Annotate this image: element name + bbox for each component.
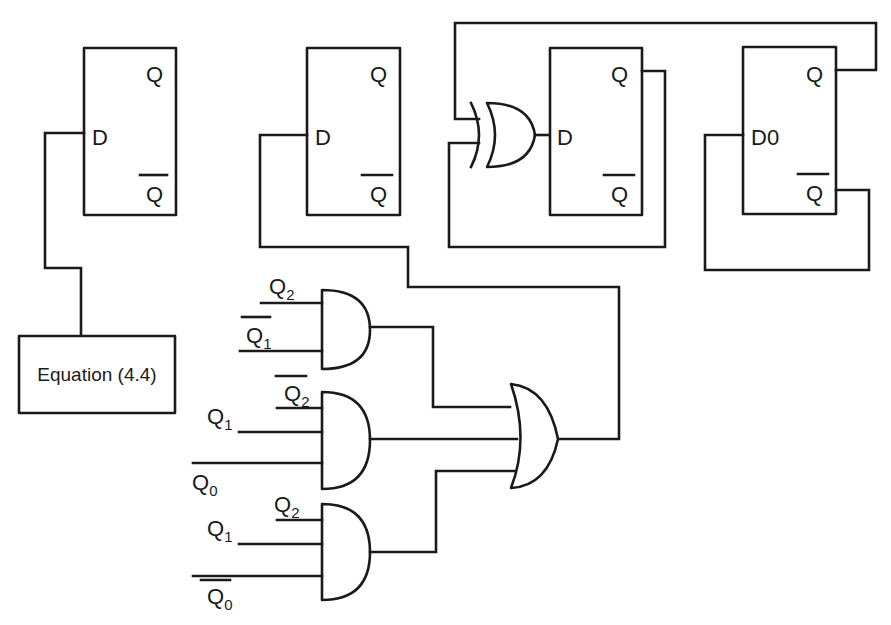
wire-and1-to-or — [370, 327, 510, 407]
and3-q0bar-label: Q0 — [207, 584, 232, 613]
and2-q2bar-label: Q2 — [284, 381, 309, 410]
flip-flop-1: Q D Q — [84, 48, 176, 215]
ff3-q-label: Q — [611, 62, 628, 87]
flip-flop-4: Q D0 Q — [743, 47, 836, 214]
ff3-d-label: D — [557, 125, 573, 150]
xor-input-curve — [471, 103, 479, 167]
and1-q2-label: Q2 — [269, 274, 294, 303]
and-gate-3: Q2 Q1 Q0 — [193, 492, 370, 613]
and-gate-1-body — [322, 290, 370, 369]
or-gate-body — [511, 384, 558, 488]
ff1-q-label: Q — [146, 62, 163, 87]
ff2-d-label: D — [315, 125, 331, 150]
circuit-diagram: Q D Q Equation (4.4) Q D Q Q D Q Q D0 — [0, 0, 891, 625]
ff1-qbar-label: Q — [146, 182, 163, 207]
ff4-q-label: Q — [806, 62, 823, 87]
equation-box: Equation (4.4) — [19, 336, 175, 413]
ff2-qbar-label: Q — [370, 182, 387, 207]
ff4-qbar-label: Q — [806, 181, 823, 206]
or-gate — [511, 384, 558, 488]
ff4-d-label: D0 — [751, 125, 779, 150]
ff1-d-label: D — [92, 125, 108, 150]
equation-label: Equation (4.4) — [37, 364, 156, 385]
and-gate-2-body — [322, 392, 370, 489]
and3-q2-label: Q2 — [274, 492, 299, 521]
and-gate-3-body — [322, 504, 370, 600]
ff3-qbar-label: Q — [611, 182, 628, 207]
wire-eq-to-ff1-d — [45, 133, 84, 335]
xor-gate — [471, 103, 535, 167]
and2-q0-label: Q0 — [192, 470, 217, 499]
and-gate-1: Q2 Q1 — [240, 274, 370, 369]
and3-q1-label: Q1 — [207, 516, 232, 545]
xor-body — [487, 103, 535, 167]
and2-q1-label: Q1 — [207, 404, 232, 433]
and1-q1bar-label: Q1 — [246, 323, 271, 352]
ff2-q-label: Q — [370, 62, 387, 87]
flip-flop-3: Q D Q — [550, 48, 642, 215]
wire-and3-to-or — [370, 471, 517, 552]
flip-flop-2: Q D Q — [307, 48, 400, 215]
and-gate-2: Q2 Q1 Q0 — [192, 376, 370, 499]
